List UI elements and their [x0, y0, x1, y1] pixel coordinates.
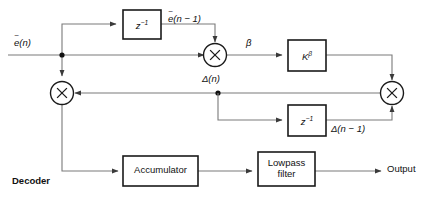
lowpass-line-2: filter [278, 168, 296, 179]
gain-block-label: Kβ [288, 50, 326, 63]
delay-bottom-exponent: −1 [306, 115, 314, 122]
delay-top-exponent: −1 [141, 19, 149, 26]
multiplier-left [51, 82, 74, 105]
wire-delta-branch-to-delay-bottom [218, 93, 282, 120]
label-delta-signal: Δ(n) [202, 74, 220, 85]
delay-block-bottom-label: z−1 [288, 115, 326, 128]
multiplier-right [381, 82, 404, 105]
label-delta-delayed-signal: Δ(n − 1) [331, 124, 365, 135]
label-decoder-caption: Decoder [12, 176, 50, 187]
accumulator-block-label: Accumulator [123, 165, 198, 176]
delay-block-top-label: z−1 [123, 19, 161, 32]
wire-input-branch-to-delay-top [62, 24, 116, 55]
tilde-accent-input: ~ [14, 32, 19, 41]
multiplier-beta [204, 44, 227, 67]
gain-exponent: β [308, 50, 312, 57]
lowpass-filter-block-label: Lowpass filter [258, 158, 315, 179]
label-delayed-input-signal: ~e(n − 1) [168, 14, 201, 25]
label-input-signal: ~e(n) [14, 38, 31, 49]
delayed-arg-text: (n − 1) [173, 13, 201, 24]
junction-dot-input [59, 52, 64, 57]
wire-delay-top-to-mult-beta [161, 24, 215, 42]
input-arg-text: (n) [19, 37, 31, 48]
tilde-accent-delayed: ~ [168, 8, 173, 17]
decoder-block-diagram: ~e(n) ~e(n − 1) β Δ(n) Δ(n − 1) Output D… [0, 0, 428, 202]
label-beta-signal: β [246, 38, 251, 49]
wire-gain-to-mult-right [326, 55, 392, 80]
wire-mult-left-to-accumulator [62, 105, 118, 171]
wire-delay-bottom-to-mult-right [326, 106, 392, 120]
lowpass-line-1: Lowpass [268, 157, 306, 168]
diagram-canvas [0, 0, 428, 202]
label-output: Output [387, 164, 416, 175]
